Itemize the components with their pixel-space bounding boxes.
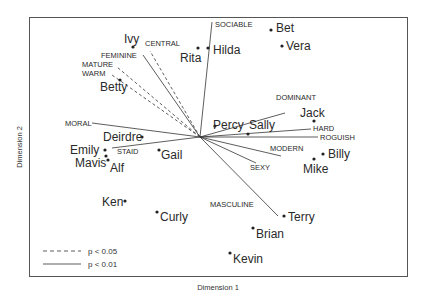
vector-sociable (200, 22, 212, 137)
point-marker-vera (280, 44, 283, 47)
point-label-hilda: Hilda (213, 43, 241, 57)
point-label-emily: Emily (70, 143, 99, 157)
point-label-percy: Percy (213, 118, 244, 132)
point-label-vera: Vera (286, 39, 311, 53)
point-marker-billy (321, 152, 324, 155)
point-marker-terry (282, 214, 285, 217)
point-marker-brian (251, 226, 254, 229)
attribute-label-masculine: MASCULINE (210, 200, 254, 209)
attribute-label-sexy: SEXY (250, 163, 270, 172)
point-marker-hilda (206, 46, 209, 49)
vector-sexy (200, 137, 256, 163)
point-label-ivy: Ivy (124, 32, 139, 46)
point-label-brian: Brian (256, 227, 284, 241)
attribute-label-feminine: FEMININE (101, 51, 137, 60)
point-label-mavis: Mavis (75, 156, 106, 170)
point-label-betty: Betty (100, 80, 127, 94)
point-label-jack: Jack (300, 106, 326, 120)
point-marker-mike (312, 157, 315, 160)
point-label-deirdre: Deirdre (103, 130, 143, 144)
point-marker-sally (246, 132, 249, 135)
point-marker-curly (155, 210, 158, 213)
vector-modern (200, 137, 281, 156)
attribute-label-warm: WARM (82, 69, 105, 78)
point-marker-rita (196, 46, 199, 49)
point-label-mike: Mike (303, 162, 329, 176)
attribute-label-dominant: DOMINANT (276, 93, 316, 102)
attribute-label-central: CENTRAL (145, 39, 180, 48)
point-label-terry: Terry (288, 210, 315, 224)
point-marker-ken (123, 199, 126, 202)
point-label-gail: Gail (161, 148, 182, 162)
attribute-label-roguish: ROGUISH (320, 133, 355, 142)
legend-dashed-label: p < 0.05 (88, 247, 118, 256)
attribute-label-staid: STAID (117, 147, 139, 156)
point-marker-emily (103, 148, 106, 151)
legend-solid-label: p < 0.01 (88, 260, 118, 269)
y-axis-label: Dimension 2 (15, 126, 24, 168)
point-label-curly: Curly (160, 210, 188, 224)
attribute-label-sociable: SOCIABLE (215, 20, 253, 29)
point-marker-kevin (228, 251, 231, 254)
point-label-alf: Alf (110, 161, 125, 175)
point-label-sally: Sally (249, 118, 275, 132)
point-marker-bet (269, 28, 272, 31)
point-label-kevin: Kevin (233, 252, 263, 266)
legend: p < 0.05 p < 0.01 (43, 247, 118, 269)
point-label-billy: Billy (328, 147, 350, 161)
point-label-rita: Rita (180, 51, 202, 65)
attribute-label-moral: MORAL (65, 119, 92, 128)
attribute-label-modern: MODERN (270, 144, 303, 153)
x-axis-label: Dimension 1 (197, 283, 239, 292)
point-label-bet: Bet (276, 21, 295, 35)
attribute-label-hard: HARD (313, 124, 335, 133)
point-label-ken: Ken (102, 195, 123, 209)
attribute-label-mature: MATURE (82, 60, 113, 69)
biplot-chart: SOCIABLECENTRALFEMININEMATUREWARMMORALST… (0, 0, 428, 294)
